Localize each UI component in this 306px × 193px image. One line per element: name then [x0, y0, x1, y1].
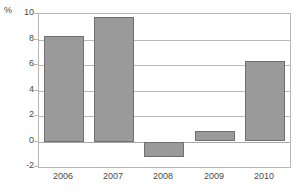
- bar-chart: % 1086420-2 20062007200820092010: [0, 0, 306, 193]
- y-tick-label: 6: [0, 59, 34, 68]
- x-tick-label-2009: 2009: [189, 171, 239, 181]
- x-tick-label-2008: 2008: [138, 171, 188, 181]
- bar-2010: [245, 61, 285, 141]
- y-tick-label: 8: [0, 34, 34, 43]
- x-tick-label-2010: 2010: [239, 171, 289, 181]
- x-tick-label-2006: 2006: [38, 171, 88, 181]
- y-axis-ticks: 1086420-2: [0, 13, 34, 168]
- y-tick-label: 0: [0, 136, 34, 145]
- y-tick-label: 4: [0, 85, 34, 94]
- x-axis-labels: 20062007200820092010: [38, 171, 291, 185]
- y-tick-label: 10: [0, 8, 34, 17]
- plot-area: [38, 13, 291, 168]
- bar-2009: [195, 131, 235, 141]
- y-tick-label: 2: [0, 110, 34, 119]
- bar-2007: [94, 17, 134, 142]
- bar-2006: [44, 36, 84, 142]
- y-tick-label: -2: [0, 161, 34, 170]
- bars-layer: [39, 14, 290, 167]
- x-tick-label-2007: 2007: [88, 171, 138, 181]
- bar-2008: [144, 142, 184, 157]
